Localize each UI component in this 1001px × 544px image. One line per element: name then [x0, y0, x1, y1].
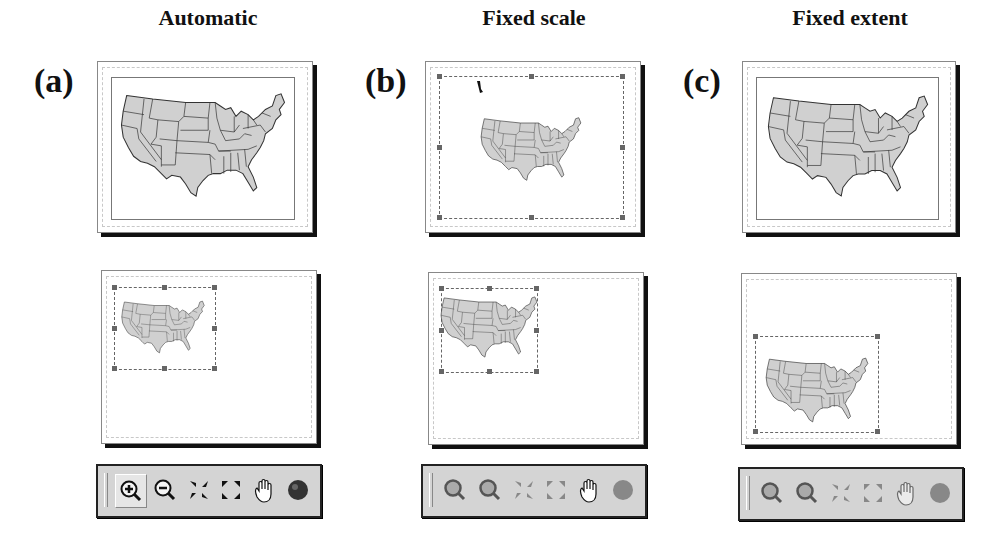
full-extent-button[interactable] — [608, 474, 638, 506]
pan-hand-icon — [894, 480, 918, 506]
zoom-in-button[interactable] — [440, 474, 470, 506]
zoom-in-icon — [760, 481, 784, 505]
us-map — [120, 297, 206, 357]
us-map — [764, 354, 870, 426]
us-map — [765, 92, 931, 200]
toolbar-grip[interactable] — [104, 473, 108, 507]
fixed-zoom-out-button[interactable] — [858, 477, 888, 509]
zoom-out-button[interactable] — [150, 474, 180, 506]
zoom-out-button[interactable] — [475, 474, 505, 506]
zoom-in-button[interactable] — [115, 474, 147, 508]
toolbar-grip[interactable] — [429, 473, 433, 507]
full-extent-globe-icon — [928, 481, 952, 505]
zoom-out-icon — [153, 478, 177, 502]
fixed-zoom-in-icon — [513, 479, 535, 501]
fixed-zoom-out-icon — [862, 482, 884, 504]
data-view-automatic[interactable] — [101, 270, 317, 444]
map-toolbar-fixed-scale — [421, 464, 647, 518]
column-title-automatic: Automatic — [88, 5, 328, 31]
fixed-zoom-in-button[interactable] — [509, 474, 539, 506]
data-view-fixed-scale[interactable] — [428, 272, 644, 445]
cursor-mark — [476, 80, 484, 94]
pan-button[interactable] — [891, 477, 921, 509]
fixed-zoom-out-icon — [220, 479, 242, 501]
full-extent-globe-icon — [286, 478, 310, 502]
pan-button[interactable] — [574, 474, 604, 506]
pan-button[interactable] — [249, 474, 279, 506]
map-toolbar-fixed-extent — [738, 467, 964, 521]
fixed-zoom-out-button[interactable] — [541, 474, 571, 506]
panel-label-c: (c) — [683, 62, 721, 100]
map-toolbar-automatic — [96, 464, 322, 518]
pan-hand-icon — [252, 477, 276, 503]
full-extent-button[interactable] — [283, 474, 313, 506]
column-title-fixed-extent: Fixed extent — [730, 5, 970, 31]
pan-hand-icon — [577, 477, 601, 503]
fixed-zoom-in-button[interactable] — [826, 477, 856, 509]
fixed-zoom-in-icon — [188, 479, 210, 501]
data-view-fixed-extent[interactable] — [741, 273, 957, 445]
zoom-out-button[interactable] — [792, 477, 822, 509]
zoom-in-button[interactable] — [757, 477, 787, 509]
panel-label-a: (a) — [34, 62, 74, 100]
fixed-zoom-out-icon — [545, 479, 567, 501]
zoom-out-icon — [478, 478, 502, 502]
zoom-in-icon — [443, 478, 467, 502]
us-map — [118, 90, 288, 200]
toolbar-grip[interactable] — [746, 476, 750, 510]
panel-label-b: (b) — [365, 62, 407, 100]
layout-view-fixed-scale — [425, 61, 641, 233]
layout-view-automatic — [97, 61, 313, 233]
zoom-out-icon — [795, 481, 819, 505]
fixed-zoom-in-icon — [830, 482, 852, 504]
full-extent-globe-icon — [611, 478, 635, 502]
fixed-zoom-in-button[interactable] — [184, 474, 214, 506]
layout-view-fixed-extent — [742, 61, 956, 233]
us-map — [479, 114, 583, 184]
zoom-in-icon — [119, 479, 143, 503]
full-extent-button[interactable] — [925, 477, 955, 509]
fixed-zoom-out-button[interactable] — [216, 474, 246, 506]
column-title-fixed-scale: Fixed scale — [414, 5, 654, 31]
us-map — [439, 289, 539, 365]
